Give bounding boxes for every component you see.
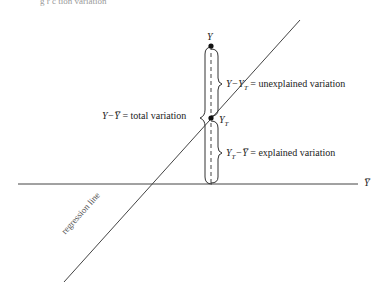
unexplained-variation-label: Y−YT = unexplained variation	[226, 79, 345, 92]
explained-variation-label: YT−Y̅ = explained variation	[226, 148, 335, 161]
predicted-point-label: YT	[219, 115, 228, 128]
observed-point	[208, 43, 213, 48]
total-variation-label: Y−Y̅ = total variation	[102, 111, 186, 121]
explained-variation-brace	[211, 121, 222, 183]
total-variation-brace	[200, 47, 212, 184]
regression-diagram	[0, 0, 385, 290]
observed-point-label: Y	[207, 32, 213, 42]
unexplained-variation-brace	[211, 49, 222, 116]
predicted-point	[208, 115, 213, 120]
mean-line-label: Y̅	[364, 178, 370, 188]
